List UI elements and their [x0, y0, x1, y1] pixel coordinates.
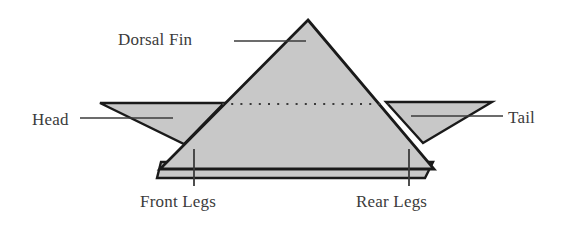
label-rear-legs: Rear Legs	[356, 192, 427, 212]
diagram-svg	[0, 0, 571, 231]
label-dorsal-fin: Dorsal Fin	[118, 30, 192, 50]
dorsal-sail-triangle-shape	[160, 20, 434, 169]
label-tail: Tail	[508, 108, 535, 128]
diagram-canvas: Dorsal Fin Head Tail Front Legs Rear Leg…	[0, 0, 571, 231]
label-head: Head	[32, 110, 69, 130]
label-front-legs: Front Legs	[140, 192, 216, 212]
